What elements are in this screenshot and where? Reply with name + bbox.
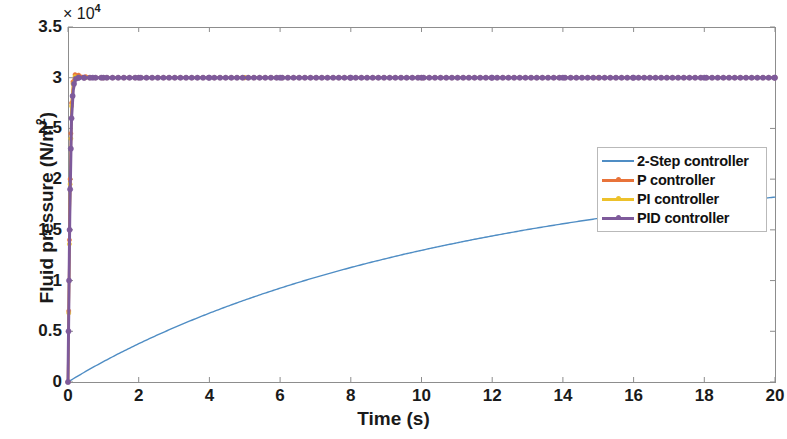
series-marker [104, 75, 109, 80]
series-marker [709, 75, 714, 80]
series-marker [172, 75, 177, 80]
series-marker [664, 75, 669, 80]
series-marker [466, 75, 471, 80]
series-marker [642, 75, 647, 80]
series-marker [704, 75, 709, 80]
series-marker [562, 75, 567, 80]
series-marker [698, 75, 703, 80]
series-marker [116, 75, 121, 80]
series-marker [726, 75, 731, 80]
series-marker [398, 75, 403, 80]
x-axis-tick-label: 0 [63, 387, 72, 404]
series-marker [263, 75, 268, 80]
series-marker [127, 75, 132, 80]
legend-item-2-step-controller[interactable]: 2-Step controller [601, 151, 764, 170]
x-axis-tick-label: 4 [205, 387, 214, 404]
series-marker [155, 75, 160, 80]
y-axis-tick-label: 3.5 [38, 18, 62, 35]
series-marker [319, 75, 324, 80]
series-marker [71, 81, 76, 86]
legend-item-pid-controller[interactable]: PID controller [601, 208, 764, 227]
series-marker [721, 75, 726, 80]
series-marker [336, 75, 341, 80]
series-marker [69, 116, 74, 121]
series-marker [167, 75, 172, 80]
series-marker [687, 75, 692, 80]
series-marker [636, 75, 641, 80]
series-marker [602, 75, 607, 80]
series-marker [681, 75, 686, 80]
series-marker [370, 75, 375, 80]
series-marker [647, 75, 652, 80]
series-marker [144, 75, 149, 80]
series-marker [285, 75, 290, 80]
series-marker [449, 75, 454, 80]
series-marker [376, 75, 381, 80]
series-marker [66, 329, 71, 334]
series-marker [743, 75, 748, 80]
series-marker [551, 75, 556, 80]
x-axis-tick-label: 10 [412, 387, 431, 404]
y-axis-tick-label: 1 [53, 272, 62, 289]
series-marker [512, 75, 517, 80]
series-marker [574, 75, 579, 80]
series-marker [110, 75, 115, 80]
series-marker [540, 75, 545, 80]
x-axis-tick-label: 18 [695, 387, 714, 404]
x-axis-tick-label: 14 [553, 387, 572, 404]
series-marker [766, 75, 771, 80]
series-marker [415, 75, 420, 80]
series-marker [591, 75, 596, 80]
legend-label: 2-Step controller [637, 153, 749, 169]
series-marker [568, 75, 573, 80]
series-marker [755, 75, 760, 80]
series-marker [65, 379, 70, 384]
series-marker [410, 75, 415, 80]
series-marker [483, 75, 488, 80]
x-axis-tick-label: 16 [624, 387, 643, 404]
series-marker [291, 75, 296, 80]
series-marker [659, 75, 664, 80]
series-marker [432, 75, 437, 80]
series-marker [325, 75, 330, 80]
series-marker [387, 75, 392, 80]
series-marker [625, 75, 630, 80]
legend-label: P controller [637, 172, 715, 188]
series-marker [772, 75, 777, 80]
series-marker [715, 75, 720, 80]
series-marker [223, 75, 228, 80]
legend-label: PID controller [637, 210, 729, 226]
series-marker [528, 75, 533, 80]
series-marker [749, 75, 754, 80]
legend-item-p-controller[interactable]: P controller [601, 170, 764, 189]
series-marker [630, 75, 635, 80]
series-marker [183, 75, 188, 80]
legend-swatch-icon [601, 154, 635, 168]
x-axis-tick-label: 8 [346, 387, 355, 404]
series-marker [234, 75, 239, 80]
series-marker [438, 75, 443, 80]
series-marker [99, 75, 104, 80]
series-marker [506, 75, 511, 80]
series-marker [738, 75, 743, 80]
series-marker [608, 75, 613, 80]
series-marker [693, 75, 698, 80]
series-marker [557, 75, 562, 80]
series-marker [251, 75, 256, 80]
y-axis-tick-label: 0.5 [38, 322, 62, 339]
series-marker [302, 75, 307, 80]
series-marker [517, 75, 522, 80]
series-marker [364, 75, 369, 80]
x-axis-tick-label: 20 [766, 387, 785, 404]
series-marker [500, 75, 505, 80]
series-marker [523, 75, 528, 80]
chart-figure: × 104 Fluid pressure (N/m2) Time (s) 00.… [0, 0, 787, 439]
series-marker [67, 227, 72, 232]
x-axis-tick-label: 6 [275, 387, 284, 404]
legend-item-pi-controller[interactable]: PI controller [601, 189, 764, 208]
series-marker [308, 75, 313, 80]
series-marker [670, 75, 675, 80]
x-axis-tick-label: 2 [134, 387, 143, 404]
series-marker [472, 75, 477, 80]
series-marker [200, 75, 205, 80]
